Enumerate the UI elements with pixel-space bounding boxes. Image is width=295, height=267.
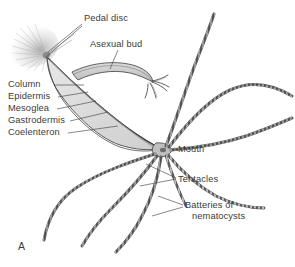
asexual-bud — [72, 63, 169, 98]
label-mouth: Mouth — [178, 144, 204, 155]
label-batteries-line2: nematocysts — [185, 211, 271, 222]
label-asexual-bud: Asexual bud — [90, 39, 142, 50]
label-column: Column — [8, 79, 41, 90]
panel-letter: A — [18, 240, 25, 252]
label-batteries-of-nematocysts: Batteries of nematocysts — [185, 200, 271, 222]
label-gastrodermis: Gastrodermis — [8, 115, 65, 126]
label-coelenteron: Coelenteron — [8, 127, 60, 138]
label-mesoglea: Mesoglea — [8, 103, 49, 114]
pedal-disc-region — [2, 20, 74, 74]
label-batteries-line1: Batteries of — [185, 200, 233, 210]
label-tentacles: Tentacles — [178, 174, 218, 185]
hydra-anatomy-figure: Pedal disc Asexual bud Column Epidermis … — [0, 0, 295, 267]
label-pedal-disc: Pedal disc — [84, 13, 128, 24]
label-epidermis: Epidermis — [8, 91, 50, 102]
